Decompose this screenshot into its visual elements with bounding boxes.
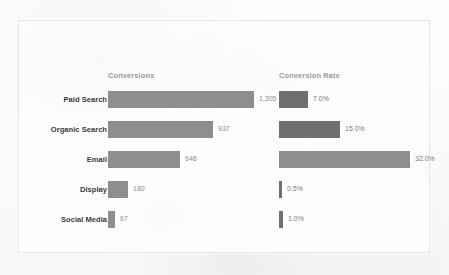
bar-conversions <box>108 181 128 198</box>
category-label: Organic Search <box>51 125 107 134</box>
chart-row: Paid Search1,3057.0% <box>19 87 429 115</box>
bar-value-conversion-rate: 0.5% <box>287 185 303 192</box>
category-label: Paid Search <box>64 95 107 104</box>
column-header-conversion-rate: Conversion Rate <box>279 71 340 80</box>
chart-card: Conversions Conversion Rate Paid Search1… <box>18 20 430 253</box>
chart-row: Email64832.0% <box>19 147 429 175</box>
bar-conversion-rate <box>279 211 283 228</box>
bar-value-conversions: 1,305 <box>259 95 277 102</box>
bar-value-conversion-rate: 7.0% <box>313 95 329 102</box>
bar-conversions <box>108 121 213 138</box>
bar-value-conversions: 180 <box>133 185 145 192</box>
bar-value-conversions: 648 <box>185 155 197 162</box>
bar-conversion-rate <box>279 181 282 198</box>
category-label: Email <box>87 155 107 164</box>
category-label: Social Media <box>61 215 107 224</box>
bar-value-conversion-rate: 15.0% <box>345 125 365 132</box>
chart-row: Social Media671.0% <box>19 207 429 235</box>
category-label: Display <box>80 185 107 194</box>
bar-value-conversion-rate: 1.0% <box>288 215 304 222</box>
bar-value-conversions: 937 <box>218 125 230 132</box>
bar-conversions <box>108 151 180 168</box>
column-header-conversions: Conversions <box>108 71 154 80</box>
bar-conversion-rate <box>279 121 340 138</box>
bar-value-conversion-rate: 32.0% <box>415 155 435 162</box>
chart-row: Organic Search93715.0% <box>19 117 429 145</box>
chart-row: Display1800.5% <box>19 177 429 205</box>
bar-conversion-rate <box>279 91 308 108</box>
bar-conversions <box>108 211 115 228</box>
bar-value-conversions: 67 <box>120 215 128 222</box>
bar-conversions <box>108 91 254 108</box>
bar-conversion-rate <box>279 151 410 168</box>
